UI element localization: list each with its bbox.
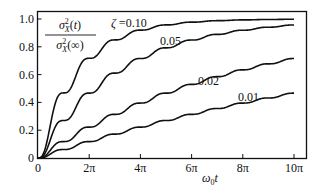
y-tick-label: 0 xyxy=(28,151,34,165)
variance-growth-chart: 00.20.40.60.81.0 02π4π6π8π10π σ2X(t) σ2X… xyxy=(0,0,322,193)
curve-label-zeta-0.02: 0.02 xyxy=(198,74,219,88)
x-axis-label: ω0t xyxy=(202,171,218,187)
x-tick-label: 4π xyxy=(134,161,146,175)
y-tick-label: 0.2 xyxy=(19,123,34,137)
y-label-denominator: σ2X(∞) xyxy=(56,37,83,54)
curve-label-zeta-0.10: ζ =0.10 xyxy=(111,16,147,30)
y-tick-label: 1.0 xyxy=(19,12,34,26)
y-axis-label: σ2X(t) σ2X(∞) xyxy=(45,17,96,54)
x-tick-label: 0 xyxy=(35,161,41,175)
x-axis-ticks: 02π4π6π8π10π xyxy=(35,154,303,175)
curve-label-zeta-0.01: 0.01 xyxy=(238,90,259,104)
y-tick-label: 0.8 xyxy=(19,40,34,54)
y-tick-label: 0.6 xyxy=(19,68,34,82)
y-label-numerator: σ2X(t) xyxy=(59,17,81,34)
x-tick-label: 6π xyxy=(186,161,198,175)
curve-label-zeta-0.05: 0.05 xyxy=(160,34,181,48)
x-tick-label: 10π xyxy=(285,161,303,175)
x-tick-label: 8π xyxy=(237,161,249,175)
x-tick-label: 2π xyxy=(83,161,95,175)
y-tick-label: 0.4 xyxy=(19,95,34,109)
